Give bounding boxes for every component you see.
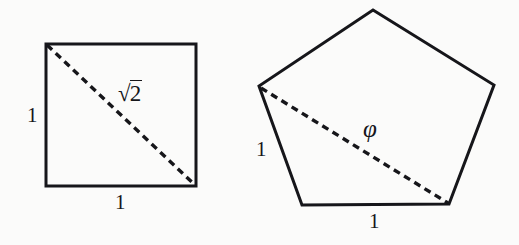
unit-square-diagonal [47,45,195,185]
pentagon-side-label-bottom: 1 [369,211,380,232]
radicand: 2 [130,80,143,106]
square-side-label-left: 1 [27,105,38,126]
square-diagonal-label: √2 [118,82,142,105]
figure-root: 1 1 √2 1 1 φ [0,0,519,245]
square-side-label-bottom: 1 [115,192,126,213]
pentagon-diagonal-label: φ [363,116,377,141]
pentagon-side-label-left: 1 [256,139,267,160]
radical-sign: √2 [118,82,142,105]
regular-pentagon-diagonal [261,88,448,203]
geometry-figure [0,0,519,245]
